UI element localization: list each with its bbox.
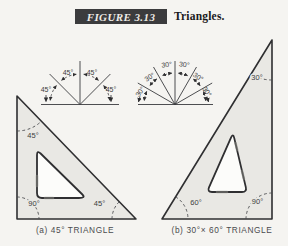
fan-45-diagram: 45° 45° 45° 45° (41, 61, 119, 105)
triangle-45-angle-bottom-right: 45° (94, 199, 105, 208)
fan-30-ray (175, 67, 197, 105)
scan-mark (236, 143, 238, 150)
fan-30-angle-label: 30° (143, 71, 156, 83)
fan-30-ray (138, 83, 175, 105)
triangle-30-60-angle-bottom-right: 90° (252, 197, 263, 206)
fan-30-angle-label: 30° (179, 60, 191, 68)
figure-panel: FIGURE 3.13 Triangles. 45° 45° 45° 45° (0, 0, 288, 246)
triangle-45-angle-top: 45° (27, 131, 38, 140)
fan-30-angle-arc (162, 73, 171, 76)
triangle-30-60-caption: (b) 30°× 60° TRIANGLE (172, 225, 273, 235)
fan-30-angle-label: 30° (161, 60, 173, 68)
triangle-45-caption: (a) 45° TRIANGLE (36, 225, 114, 235)
fan-30-angle-label: 30° (192, 71, 205, 83)
triangles-diagram: 45° 45° 45° 45° 30° 30° 30° 30° 30° (0, 0, 288, 246)
triangle-45-angle-bottom-left: 90° (28, 199, 39, 208)
fan-45-angle-label: 45° (63, 69, 74, 76)
fan-30-diagram: 30° 30° 30° 30° 30° 30° (134, 60, 213, 104)
scan-mark (242, 171, 244, 179)
fan-45-angle-label: 45° (41, 86, 52, 93)
triangle-30-60: 30° 60° 90° (b) 30°× 60° TRIANGLE (162, 40, 272, 235)
triangle-45: 45° 90° 45° (a) 45° TRIANGLE (17, 96, 136, 235)
fan-30-ray (154, 67, 176, 105)
triangle-30-60-angle-top: 30° (251, 73, 262, 82)
fan-30-angle-label: 30° (201, 85, 213, 98)
fan-45-angle-label: 45° (106, 86, 117, 93)
fan-45-angle-label: 45° (87, 69, 98, 76)
fan-30-angle-arc (144, 91, 147, 100)
triangle-30-60-angle-bottom-left: 60° (190, 198, 201, 207)
fan-30-angle-arc (178, 73, 187, 76)
